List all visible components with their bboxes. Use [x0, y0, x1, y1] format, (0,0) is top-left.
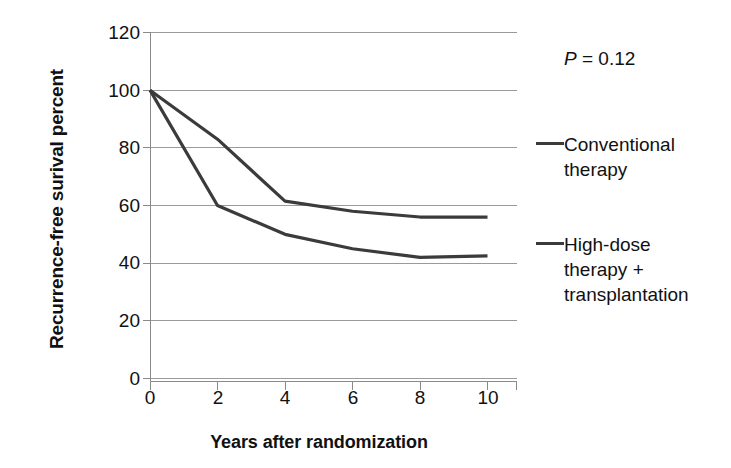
y-axis-ticks — [143, 33, 150, 379]
x-axis-title: Years after randomization — [150, 432, 488, 453]
series-line-conventional-therapy — [150, 90, 488, 217]
x-tick-label: 2 — [188, 388, 248, 407]
legend-entry-conventional-therapy[interactable]: Conventional therapy — [536, 132, 731, 182]
gridlines — [150, 33, 517, 379]
legend-label: Conventional therapy — [564, 132, 731, 182]
p-value-annotation: P = 0.12 — [564, 48, 635, 70]
x-tick-label: 4 — [255, 388, 315, 407]
legend-line-swatch-icon — [536, 242, 564, 245]
p-value-number: = 0.12 — [577, 48, 636, 69]
chart-figure: Recurrence-free surival percent 120 100 … — [0, 0, 731, 468]
x-tick-label: 0 — [120, 388, 180, 407]
p-value-symbol: P — [564, 48, 577, 69]
x-tick-label: 10 — [458, 388, 518, 407]
x-tick-label: 6 — [323, 388, 383, 407]
x-tick-label: 8 — [390, 388, 450, 407]
legend-entry-high-dose-therapy-transplantation[interactable]: High-dose therapy + transplantation — [536, 232, 731, 307]
legend-line-swatch-icon — [536, 142, 564, 145]
legend-label: High-dose therapy + transplantation — [564, 232, 731, 307]
series-line-high-dose-therapy-transplantation — [150, 90, 488, 257]
x-axis-tick-labels: 0 2 4 6 8 10 — [0, 388, 620, 414]
